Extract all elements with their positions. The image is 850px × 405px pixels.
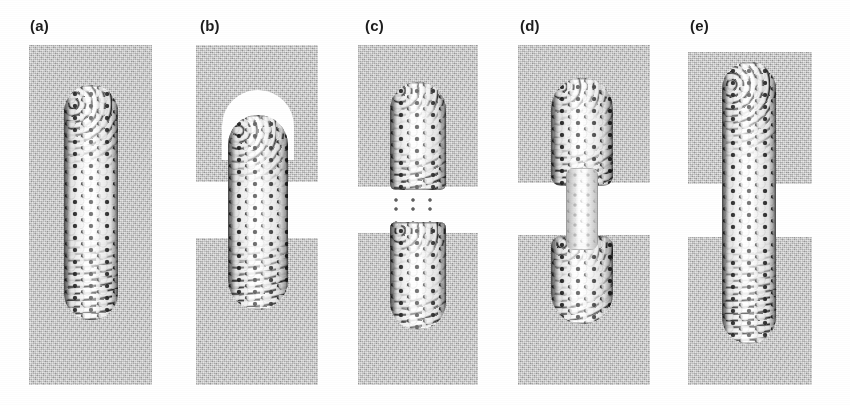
nanotube-atoms-layer [722, 62, 776, 344]
nanotube-atoms-layer [390, 82, 446, 190]
panel-label-a: (a) [30, 17, 49, 34]
nanotube-atoms-layer [228, 115, 288, 310]
panel-label-c: (c) [365, 17, 384, 34]
nanotube-segment [390, 222, 446, 330]
nanotube-atoms-layer [390, 222, 446, 330]
nanotube-atoms-layer [64, 85, 118, 320]
nanotube-atoms-layer [566, 168, 598, 250]
nanotube-segment [390, 82, 446, 190]
nanotube-neck [566, 168, 598, 250]
panel-label-d: (d) [520, 17, 540, 34]
panel-label-e: (e) [690, 17, 709, 34]
figure-canvas: (a)(b)(c)(d)(e) [0, 0, 850, 405]
nanotube-segment [228, 115, 288, 310]
panel-label-b: (b) [200, 17, 220, 34]
nanotube-segment [64, 85, 118, 320]
nanotube-segment [722, 62, 776, 344]
